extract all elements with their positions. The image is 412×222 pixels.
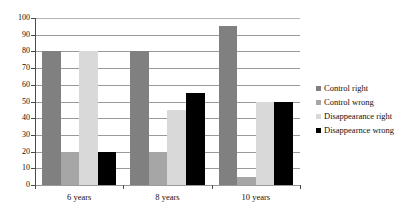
y-axis-tick — [31, 135, 36, 136]
bar-group — [42, 18, 116, 185]
bar-group — [219, 18, 293, 185]
y-axis-tick-label: 80 — [4, 47, 30, 55]
chart-legend: Control rightControl wrongDisappearance … — [316, 81, 410, 137]
bar — [42, 51, 61, 185]
legend-label: Control wrong — [324, 97, 374, 107]
y-axis-tick — [31, 18, 36, 19]
bar — [79, 51, 98, 185]
legend-swatch-icon — [316, 86, 321, 91]
x-axis-category-label: 8 years — [123, 192, 211, 202]
legend-swatch-icon — [316, 128, 321, 133]
y-axis-tick-label: 60 — [4, 81, 30, 89]
x-axis-tick — [123, 185, 124, 189]
y-axis-tick — [31, 68, 36, 69]
y-axis-tick-label: 40 — [4, 114, 30, 122]
y-axis-tick-label: 50 — [4, 98, 30, 106]
bar — [256, 102, 275, 186]
bar — [274, 102, 293, 186]
legend-item: Control right — [316, 81, 410, 95]
y-axis-tick-label: 70 — [4, 64, 30, 72]
bar-chart: 0102030405060708090100 Control rightCont… — [0, 0, 412, 222]
bar — [98, 152, 117, 185]
y-axis-tick-label: 10 — [4, 164, 30, 172]
bar — [219, 26, 238, 185]
bar — [130, 51, 149, 185]
x-axis-category-label: 6 years — [35, 192, 123, 202]
y-axis-tick — [31, 102, 36, 103]
bar — [167, 110, 186, 185]
x-axis-category-label: 10 years — [212, 192, 300, 202]
x-axis-tick — [300, 185, 301, 189]
y-axis-tick — [31, 152, 36, 153]
y-axis-tick-label: 100 — [4, 14, 30, 22]
legend-swatch-icon — [316, 114, 321, 119]
y-axis-tick-label: 30 — [4, 131, 30, 139]
y-axis-tick — [31, 118, 36, 119]
y-axis-tick — [31, 35, 36, 36]
y-axis-tick-label: 90 — [4, 31, 30, 39]
legend-label: Disappearnce wrong — [324, 125, 394, 135]
bar — [186, 93, 205, 185]
grid-line — [35, 185, 300, 186]
y-axis-tick-label: 0 — [4, 181, 30, 189]
y-axis-labels: 0102030405060708090100 — [0, 0, 30, 222]
x-axis-tick — [212, 185, 213, 189]
bar — [149, 152, 168, 185]
x-axis-tick — [35, 185, 36, 189]
legend-item: Disappearance right — [316, 109, 410, 123]
bar-group — [130, 18, 204, 185]
y-axis-tick — [31, 51, 36, 52]
y-axis-tick — [31, 85, 36, 86]
legend-label: Control right — [324, 83, 368, 93]
y-axis-tick-label: 20 — [4, 148, 30, 156]
legend-item: Disappearnce wrong — [316, 123, 410, 137]
legend-item: Control wrong — [316, 95, 410, 109]
y-axis-tick — [31, 168, 36, 169]
legend-swatch-icon — [316, 100, 321, 105]
bar — [61, 152, 80, 185]
legend-label: Disappearance right — [324, 111, 392, 121]
bar — [237, 177, 256, 185]
